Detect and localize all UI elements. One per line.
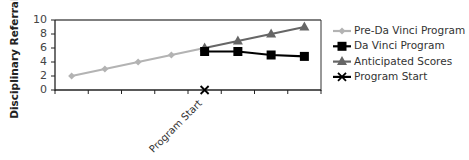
series-line — [205, 27, 305, 48]
diamond-marker — [68, 73, 75, 80]
legend-item: Program Start — [333, 70, 427, 82]
square-marker — [233, 47, 242, 56]
legend-label: Da Vinci Program — [354, 39, 445, 51]
legend-label: Anticipated Scores — [354, 55, 452, 67]
diamond-marker — [101, 66, 108, 73]
x-category-label: Program Start — [147, 98, 204, 155]
y-tick-label: 8 — [40, 27, 47, 40]
square-marker — [200, 47, 209, 56]
series-da-vinci-program — [200, 47, 309, 61]
diamond-marker — [135, 59, 142, 66]
legend-item: Pre-Da Vinci Program — [333, 24, 465, 36]
legend-item: Anticipated Scores — [333, 55, 452, 67]
y-tick-label: 6 — [40, 41, 47, 54]
series-pre-da-vinci-program — [68, 45, 208, 80]
y-axis-ticks: 0246810 — [33, 13, 55, 96]
legend: Pre-Da Vinci ProgramDa Vinci ProgramAnti… — [333, 24, 465, 82]
square-marker — [300, 52, 309, 61]
y-axis-label: Disciplinary Referrals — [8, 0, 20, 119]
x-axis-category-labels: Program Start — [147, 98, 204, 155]
series-layer — [68, 22, 309, 95]
series-anticipated-scores — [200, 22, 310, 52]
line-chart: Disciplinary Referrals 0246810 Program S… — [0, 0, 469, 160]
y-tick-label: 2 — [40, 69, 47, 82]
diamond-marker — [339, 28, 346, 35]
square-marker — [338, 42, 347, 51]
y-tick-label: 4 — [40, 55, 47, 68]
legend-label: Pre-Da Vinci Program — [354, 24, 465, 36]
legend-item: Da Vinci Program — [333, 39, 445, 51]
legend-label: Program Start — [354, 70, 427, 82]
series-line — [205, 52, 305, 57]
triangle-marker — [299, 22, 309, 31]
square-marker — [267, 51, 276, 60]
y-tick-label: 10 — [33, 13, 47, 26]
diamond-marker — [168, 52, 175, 59]
y-tick-label: 0 — [40, 83, 47, 96]
